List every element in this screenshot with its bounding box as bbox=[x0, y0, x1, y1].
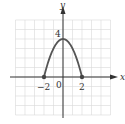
x-tick-2: 2 bbox=[79, 82, 85, 92]
x-axis-arrow-icon bbox=[110, 75, 118, 80]
parabola-graph: x y 4 −2 0 2 bbox=[0, 0, 125, 124]
origin-label: 0 bbox=[56, 80, 62, 90]
endpoint-left bbox=[42, 75, 46, 79]
y-axis bbox=[61, 6, 66, 118]
y-axis-label: y bbox=[59, 0, 66, 10]
x-axis bbox=[10, 75, 118, 80]
y-tick-4: 4 bbox=[55, 29, 61, 39]
endpoint-right bbox=[80, 75, 84, 79]
x-axis-label: x bbox=[120, 72, 125, 82]
x-tick-neg2: −2 bbox=[37, 82, 50, 92]
